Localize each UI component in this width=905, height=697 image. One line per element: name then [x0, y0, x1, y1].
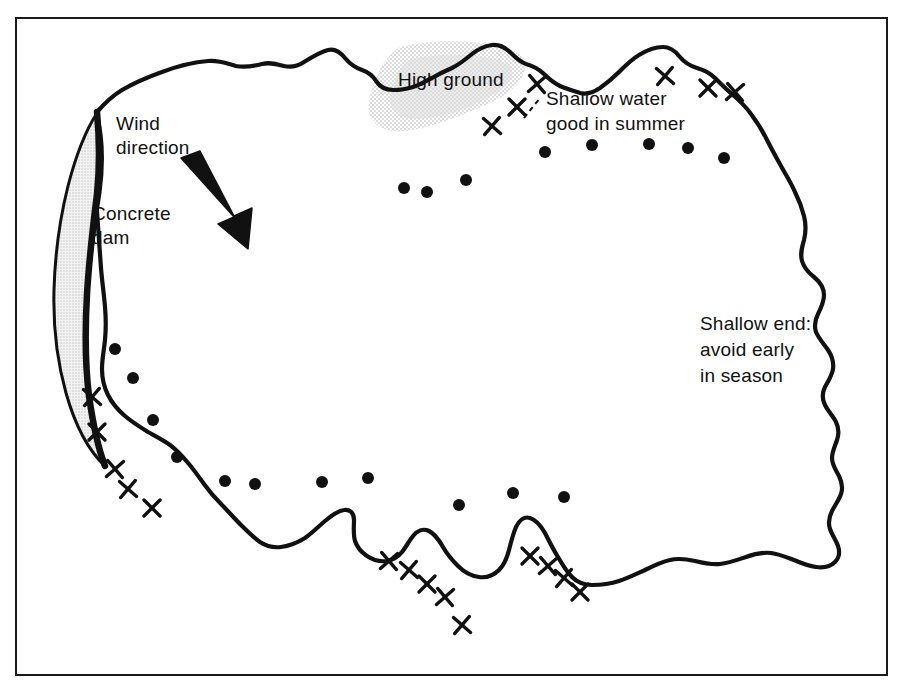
high-ground-label: High ground: [398, 69, 504, 90]
diagram-page: Wind direction Concrete dam High ground …: [0, 0, 905, 697]
dot-marker: [219, 475, 231, 487]
dot-marker: [249, 478, 261, 490]
dot-marker: [127, 372, 139, 384]
shallow-end-label-line3: in season: [700, 365, 783, 386]
dot-marker: [316, 476, 328, 488]
shallow-end-label-line1: Shallow end:: [700, 313, 811, 334]
dot-marker: [460, 174, 472, 186]
dot-marker: [171, 451, 183, 463]
dot-marker: [507, 487, 519, 499]
lake-map-svg: Wind direction Concrete dam High ground …: [0, 0, 905, 697]
dot-marker: [421, 186, 433, 198]
wind-direction-label-line1: Wind: [116, 113, 160, 134]
shallow-end-label-line2: avoid early: [700, 339, 794, 360]
shallow-water-label-line1: Shallow water: [546, 88, 667, 109]
dot-marker: [109, 343, 121, 355]
dot-marker: [718, 152, 730, 164]
wind-direction-label-line2: direction: [116, 137, 190, 158]
concrete-dam-label-line2: dam: [92, 227, 130, 248]
dot-marker: [558, 491, 570, 503]
dot-marker: [453, 499, 465, 511]
dot-marker: [362, 472, 374, 484]
label-high-ground: High ground: [398, 69, 504, 90]
dot-marker: [147, 414, 159, 426]
concrete-dam-label-line1: Concrete: [92, 203, 171, 224]
dot-marker: [682, 142, 694, 154]
dot-marker: [398, 182, 410, 194]
shallow-water-label-line2: good in summer: [546, 113, 686, 134]
dot-marker: [643, 138, 655, 150]
dot-marker: [586, 139, 598, 151]
dot-marker: [539, 146, 551, 158]
